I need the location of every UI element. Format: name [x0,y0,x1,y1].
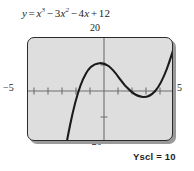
x-min-label: −5 [3,82,14,93]
x-max-label: 5 [177,82,182,93]
plot-area [28,38,173,141]
equation-term4-constant: 12 [99,7,110,19]
equation-operator-3: + [89,7,98,19]
equation-operator-1: − [45,7,54,19]
y-max-label: 20 [90,22,100,33]
calculator-screen-container [27,37,173,141]
function-equation-label: y=x3−3x2−4x+12 [22,7,110,19]
equation-operator-2: − [69,7,78,19]
equation-equals: = [27,7,36,19]
graph-figure: y=x3−3x2−4x+12 20 −20 −5 5 [0,0,194,171]
yscl-note: Yscl = 10 [133,151,176,162]
calculator-screen [27,37,173,141]
